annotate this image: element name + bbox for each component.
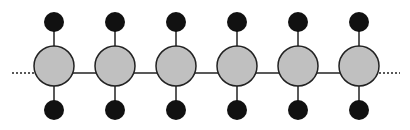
top-side-node [44, 12, 64, 32]
main-node [156, 46, 196, 86]
bottom-side-node [105, 100, 125, 120]
top-side-node [349, 12, 369, 32]
top-side-node [288, 12, 308, 32]
bottom-side-node [288, 100, 308, 120]
bottom-side-node [227, 100, 247, 120]
top-side-node [166, 12, 186, 32]
bottom-side-node [166, 100, 186, 120]
main-node [217, 46, 257, 86]
top-side-node [105, 12, 125, 32]
bottom-side-node [349, 100, 369, 120]
bottom-side-node [44, 100, 64, 120]
main-node [278, 46, 318, 86]
main-node [95, 46, 135, 86]
main-node [339, 46, 379, 86]
main-node [34, 46, 74, 86]
chain-diagram [0, 0, 410, 130]
top-side-node [227, 12, 247, 32]
